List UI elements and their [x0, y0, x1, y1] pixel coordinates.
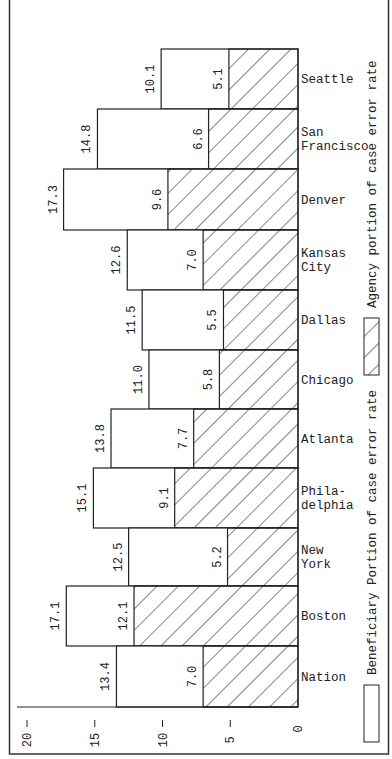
- category-label-line: Atlanta: [301, 433, 354, 447]
- category-label-line: City: [301, 261, 332, 275]
- category-label: Denver: [301, 194, 346, 208]
- agency-value-label: 9.1: [158, 487, 172, 509]
- category-label-line: Phila-: [301, 485, 346, 499]
- bar-group: 11.55.5Dallas: [125, 290, 346, 350]
- category-label: KansasCity: [301, 247, 346, 275]
- agency-bar: [203, 646, 298, 707]
- category-label: NewYork: [301, 544, 331, 572]
- agency-bar: [175, 468, 298, 528]
- legend: Agency portion of case error rateBenefic…: [364, 60, 380, 742]
- agency-value-label: 12.1: [117, 602, 131, 631]
- category-label-line: Denver: [301, 194, 346, 208]
- agency-bar: [209, 109, 298, 169]
- category-label-line: Kansas: [301, 247, 346, 261]
- beneficiary-value-label: 15.1: [76, 484, 90, 513]
- agency-bar: [229, 49, 298, 109]
- category-label-line: Francisco: [301, 140, 369, 154]
- axis-tick-label: 0: [292, 725, 306, 732]
- legend-swatch-beneficiary: [364, 685, 379, 742]
- category-label-line: Dallas: [301, 314, 346, 328]
- agency-bar: [194, 409, 298, 468]
- beneficiary-value-label: 11.0: [132, 365, 146, 394]
- category-label: Boston: [301, 610, 346, 624]
- agency-bar: [134, 586, 298, 646]
- bar-group: 13.47.0Nation: [99, 646, 346, 707]
- bar-group: 14.86.6SanFrancisco: [80, 109, 368, 169]
- agency-value-label: 7.7: [177, 428, 191, 450]
- agency-bar: [168, 169, 298, 230]
- category-label: Dallas: [301, 314, 346, 328]
- agency-value-label: 5.8: [202, 369, 216, 391]
- category-label-line: Chicago: [301, 374, 354, 388]
- category-label: Atlanta: [301, 433, 354, 447]
- category-label: SanFrancisco: [301, 126, 369, 154]
- legend-label-beneficiary: Beneficiary Portion of case error rate: [366, 390, 380, 675]
- agency-value-label: 7.0: [186, 666, 200, 688]
- category-label-line: York: [301, 558, 331, 572]
- beneficiary-value-label: 17.3: [47, 185, 61, 214]
- bars-group: 10.15.1Seattle14.86.6SanFrancisco17.39.6…: [47, 49, 369, 707]
- beneficiary-value-label: 17.1: [49, 602, 63, 631]
- agency-bar: [223, 290, 298, 350]
- axis-tick-label: 10: [157, 733, 171, 747]
- error-rate-bar-chart: 10.15.1Seattle14.86.6SanFrancisco17.39.6…: [0, 0, 392, 759]
- agency-value-label: 7.0: [186, 249, 200, 271]
- bar-group: 12.67.0KansasCity: [110, 230, 346, 290]
- category-label: Chicago: [301, 374, 354, 388]
- beneficiary-value-label: 13.4: [99, 662, 113, 691]
- beneficiary-value-label: 10.1: [144, 65, 158, 94]
- bar-group: 17.112.1Boston: [49, 586, 346, 646]
- axis-tick-label: 15: [89, 733, 103, 747]
- beneficiary-value-label: 12.5: [112, 543, 126, 572]
- bar-group: 12.55.2NewYork: [112, 528, 331, 586]
- bar-group: 13.87.7Atlanta: [94, 409, 354, 468]
- agency-value-label: 5.1: [212, 68, 226, 90]
- bar-group: 17.39.6Denver: [47, 169, 346, 230]
- category-label-line: delphia: [301, 499, 354, 513]
- axis-tick-label: 20: [21, 733, 35, 747]
- category-label-line: Seattle: [301, 73, 354, 87]
- agency-bar: [203, 230, 298, 290]
- agency-value-label: 5.5: [206, 309, 220, 331]
- axis-tick-label: 5: [224, 736, 238, 743]
- category-label-line: New: [301, 544, 324, 558]
- agency-value-label: 5.2: [211, 546, 225, 568]
- legend-swatch-agency: [364, 318, 379, 375]
- category-label-line: Nation: [301, 671, 346, 685]
- category-label-line: Boston: [301, 610, 346, 624]
- category-label: Phila-delphia: [301, 485, 354, 513]
- beneficiary-value-label: 11.5: [125, 306, 139, 335]
- chart-canvas: 10.15.1Seattle14.86.6SanFrancisco17.39.6…: [0, 0, 392, 759]
- legend-label-agency: Agency portion of case error rate: [366, 60, 380, 308]
- bar-group: 15.19.1Phila-delphia: [76, 468, 354, 528]
- beneficiary-value-label: 13.8: [94, 424, 108, 453]
- category-label-line: San: [301, 126, 324, 140]
- category-label: Seattle: [301, 73, 354, 87]
- agency-value-label: 6.6: [192, 128, 206, 150]
- agency-bar: [228, 528, 298, 586]
- value-axis: 05101520: [17, 707, 306, 747]
- category-label: Nation: [301, 671, 346, 685]
- bar-group: 10.15.1Seattle: [144, 49, 353, 109]
- beneficiary-value-label: 14.8: [80, 125, 94, 154]
- agency-value-label: 9.6: [151, 189, 165, 211]
- bar-group: 11.05.8Chicago: [132, 350, 354, 409]
- agency-bar: [219, 350, 298, 409]
- beneficiary-value-label: 12.6: [110, 246, 124, 275]
